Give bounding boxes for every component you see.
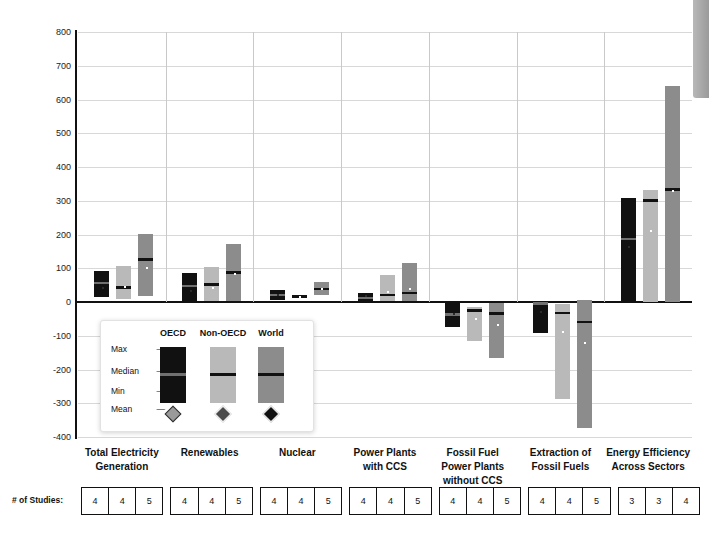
- legend-row-label: Median: [111, 366, 139, 376]
- mean-marker: [672, 190, 674, 192]
- studies-count-cell: 5: [404, 488, 431, 514]
- legend-row-label: Max: [111, 344, 127, 354]
- range-bar: [116, 266, 131, 299]
- range-bar-body: [402, 263, 417, 301]
- group-separator: [253, 32, 254, 302]
- mean-marker: [365, 295, 367, 297]
- studies-count-cell: 4: [171, 488, 197, 514]
- range-bar-body: [467, 307, 482, 341]
- range-bar: [665, 86, 680, 302]
- category-label-line: Total Electricity: [78, 446, 166, 460]
- y-axis-tick-label: 600: [56, 95, 71, 105]
- mean-marker: [497, 324, 499, 326]
- category-label-line: Renewables: [166, 446, 254, 460]
- gridline: [78, 201, 692, 202]
- chart-page: Changes in Annual Investment Flows 2010-…: [0, 0, 709, 535]
- mean-marker: [124, 286, 126, 288]
- category-label: Energy EfficiencyAcross Sectors: [604, 446, 692, 474]
- legend-row: Min—: [111, 386, 165, 396]
- range-bar: [621, 198, 636, 302]
- range-bar-body: [116, 266, 131, 299]
- category-label-line: Extraction of: [517, 446, 605, 460]
- y-axis-line: [75, 30, 77, 439]
- category-label: Power Plantswith CCS: [341, 446, 429, 474]
- category-label: Nuclear: [253, 446, 341, 460]
- gridline: [78, 133, 692, 134]
- category-label-line: Power Plants: [341, 446, 429, 460]
- median-marker: [358, 297, 373, 300]
- range-bar: [643, 190, 658, 302]
- y-axis-tick-label: -300: [53, 398, 71, 408]
- category-label-line: Power Plants: [429, 460, 517, 474]
- range-bar: [555, 304, 570, 399]
- range-bar-body: [489, 303, 504, 358]
- legend-row-label: Min: [111, 386, 125, 396]
- y-axis-tick-label: 800: [56, 27, 71, 37]
- y-axis-tick-label: 200: [56, 230, 71, 240]
- range-bar-body: [533, 303, 548, 333]
- mean-marker: [628, 246, 630, 248]
- mean-marker: [321, 288, 323, 290]
- category-label-line: Fossil Fuels: [517, 460, 605, 474]
- y-axis-tick-label: 700: [56, 61, 71, 71]
- mean-marker: [102, 287, 104, 289]
- median-marker: [380, 294, 395, 297]
- studies-count-cell: 5: [135, 488, 162, 514]
- median-marker: [138, 258, 153, 261]
- range-bar-body: [665, 86, 680, 302]
- group-separator: [429, 32, 430, 302]
- legend-header-non-oecd: Non-OECD: [199, 328, 247, 338]
- median-marker: [467, 309, 482, 312]
- mean-marker: [409, 288, 411, 290]
- studies-group-box: 445: [528, 487, 610, 515]
- range-bar-body: [380, 275, 395, 302]
- studies-count-cell: 5: [493, 488, 520, 514]
- studies-count-cell: 3: [645, 488, 672, 514]
- legend-dash: —: [157, 404, 166, 414]
- studies-group-box: 445: [439, 487, 521, 515]
- median-marker: [204, 283, 219, 286]
- gridline: [78, 100, 692, 101]
- median-marker: [182, 285, 197, 288]
- category-label-line: without CCS: [429, 474, 517, 488]
- studies-count-cell: 4: [440, 488, 466, 514]
- mean-marker: [453, 313, 455, 315]
- legend-mean-marker: [165, 406, 182, 423]
- mean-marker: [190, 290, 192, 292]
- category-label-line: Generation: [78, 460, 166, 474]
- range-bar-body: [643, 190, 658, 302]
- median-marker: [577, 321, 592, 324]
- legend-bar-non-oecd: [210, 347, 236, 403]
- group-separator: [517, 32, 518, 302]
- studies-count-cell: 4: [466, 488, 493, 514]
- legend-row-label: Mean: [111, 404, 132, 414]
- studies-table: # of Studies: 445445445445445445334: [12, 487, 700, 513]
- y-axis-tick-label: -200: [53, 365, 71, 375]
- median-marker: [489, 312, 504, 315]
- mean-marker: [540, 311, 542, 313]
- range-bar: [402, 263, 417, 301]
- median-marker: [643, 199, 658, 202]
- category-label-line: with CCS: [341, 460, 429, 474]
- studies-group-box: 445: [349, 487, 431, 515]
- median-marker: [555, 312, 570, 315]
- y-axis-tick-label: 0: [66, 297, 71, 307]
- studies-group-box: 445: [81, 487, 163, 515]
- median-marker: [402, 292, 417, 295]
- legend-mean-marker: [263, 406, 280, 423]
- studies-label: # of Studies:: [12, 487, 63, 513]
- mean-marker: [277, 294, 279, 296]
- y-axis-tick-label: 500: [56, 128, 71, 138]
- mean-marker: [212, 287, 214, 289]
- range-bar: [94, 271, 109, 297]
- chart-legend: OECDNon-OECDWorldMax—Median—Min—Mean—: [100, 320, 314, 432]
- legend-median-marker: [210, 373, 236, 376]
- studies-count-cell: 4: [350, 488, 376, 514]
- studies-count-cell: 4: [555, 488, 582, 514]
- studies-count-cell: 4: [529, 488, 555, 514]
- legend-median-marker: [160, 373, 186, 376]
- range-bar: [380, 275, 395, 302]
- mean-marker: [475, 318, 477, 320]
- y-axis-tick-label: -100: [53, 331, 71, 341]
- studies-count-cell: 4: [376, 488, 403, 514]
